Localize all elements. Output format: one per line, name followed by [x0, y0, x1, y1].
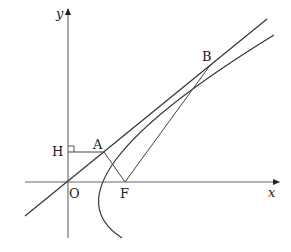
line-OAB: [25, 19, 267, 216]
label-F: F: [120, 186, 129, 201]
y-axis-label: y: [55, 6, 64, 21]
label-H: H: [52, 144, 63, 159]
parabola-curve: [99, 35, 274, 238]
segment-AF: [104, 152, 125, 182]
segment-BF: [125, 64, 211, 182]
label-A: A: [92, 137, 103, 152]
label-O: O: [69, 186, 80, 201]
x-axis-label: x: [268, 185, 276, 200]
label-B: B: [202, 49, 212, 64]
right-angle-mark: [68, 146, 74, 152]
diagram-canvas: y x O A B F H: [0, 0, 291, 252]
